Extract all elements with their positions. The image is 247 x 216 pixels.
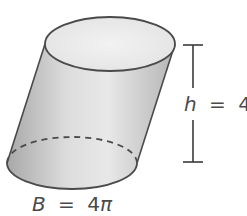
base-area-label: B = 4π <box>32 192 113 216</box>
pi-symbol: π <box>100 192 113 216</box>
height-variable: h <box>184 92 197 116</box>
base-equals: = <box>58 192 75 216</box>
base-value: 4 <box>87 192 100 216</box>
oblique-cylinder-diagram: h = 4 B = 4π <box>0 0 247 216</box>
base-variable: B <box>32 192 46 216</box>
height-value: 4 <box>238 92 247 116</box>
height-equals: = <box>209 92 226 116</box>
height-label: h = 4 <box>184 92 247 116</box>
top-base-face <box>45 17 175 71</box>
